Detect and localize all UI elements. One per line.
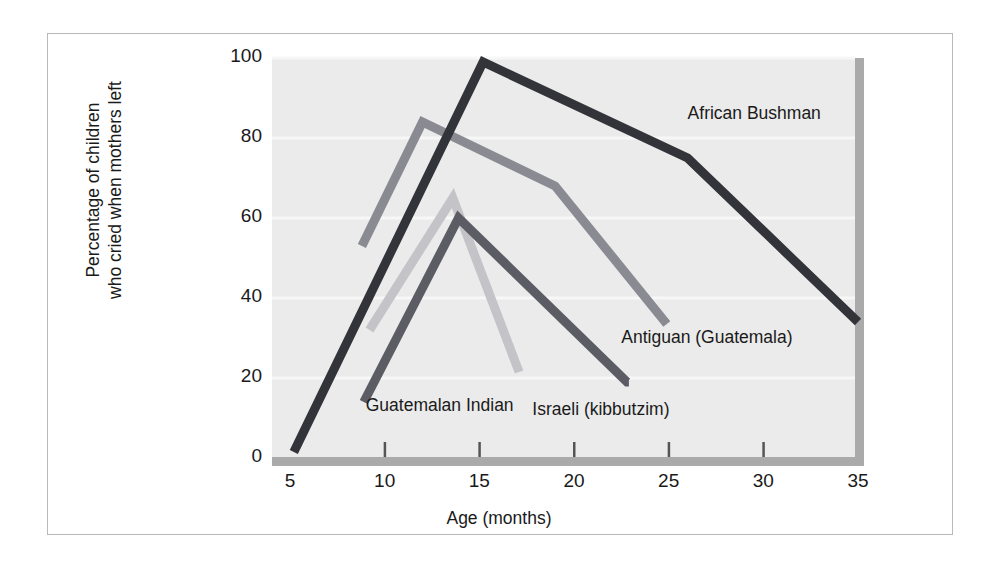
x-tick-label: 10 — [363, 470, 407, 492]
series-annotation: Guatemalan Indian — [366, 395, 514, 416]
x-tick-mark — [668, 442, 671, 457]
gridline — [272, 297, 855, 300]
y-tick-label: 60 — [216, 205, 262, 227]
y-tick-label: 40 — [216, 285, 262, 307]
x-tick-label: 20 — [552, 470, 596, 492]
x-tick-mark — [573, 442, 576, 457]
y-tick-label: 100 — [216, 45, 262, 67]
series-annotation: Antiguan (Guatemala) — [621, 327, 792, 348]
series-annotation: Israeli (kibbutzim) — [532, 399, 669, 420]
gridline — [272, 217, 855, 220]
x-tick-mark — [478, 442, 481, 457]
x-tick-mark — [762, 442, 765, 457]
x-tick-label: 35 — [836, 470, 880, 492]
y-tick-label: 0 — [216, 445, 262, 467]
series-annotation: African Bushman — [688, 103, 821, 124]
x-tick-mark — [384, 442, 387, 457]
x-axis-label: Age (months) — [0, 508, 998, 529]
chart-figure: 020406080100 5101520253035 Percentage of… — [0, 0, 998, 570]
x-tick-label: 5 — [268, 470, 312, 492]
right-axis-bar — [855, 58, 864, 462]
x-axis-bar — [272, 457, 864, 466]
x-tick-label: 25 — [647, 470, 691, 492]
gridline — [272, 377, 855, 380]
y-axis-label-line2: who cried when mothers left — [104, 81, 126, 299]
y-tick-label: 20 — [216, 365, 262, 387]
y-axis-label-line1: Percentage of children — [82, 102, 104, 277]
gridline — [272, 137, 855, 140]
y-axis-label: Percentage of children who cried when mo… — [74, 0, 134, 390]
x-tick-label: 30 — [741, 470, 785, 492]
y-tick-label: 80 — [216, 125, 262, 147]
gridline — [272, 57, 855, 60]
x-tick-label: 15 — [457, 470, 501, 492]
